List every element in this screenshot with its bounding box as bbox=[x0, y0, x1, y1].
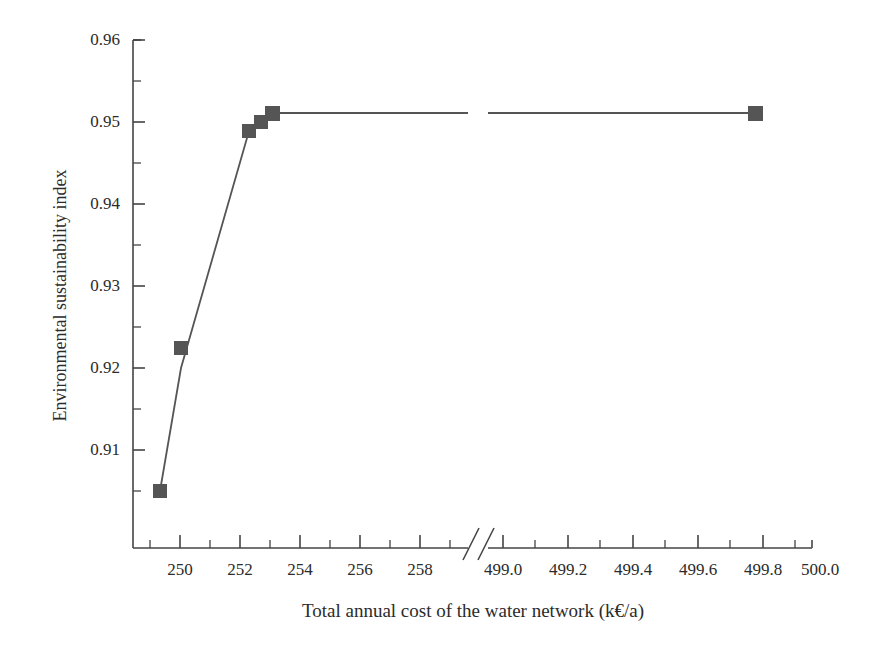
data-line-left bbox=[160, 113, 468, 491]
data-markers bbox=[153, 106, 763, 498]
data-point-marker bbox=[748, 106, 763, 121]
data-point-marker bbox=[174, 341, 188, 355]
data-point-marker bbox=[265, 106, 280, 121]
data-point-marker bbox=[153, 484, 167, 498]
plot-canvas bbox=[0, 0, 871, 658]
x-major-ticks-right bbox=[503, 535, 763, 548]
axis-spines bbox=[133, 40, 812, 548]
axis-break-marker bbox=[463, 528, 494, 560]
x-major-ticks-left bbox=[180, 535, 420, 548]
data-point-marker bbox=[242, 124, 256, 138]
x-minor-ticks-right bbox=[535, 540, 795, 548]
data-line bbox=[160, 113, 755, 491]
axis-break-slash bbox=[478, 528, 494, 560]
chart-figure: Environmental sustainability index Total… bbox=[0, 0, 871, 658]
axis-break-slash bbox=[463, 528, 479, 560]
